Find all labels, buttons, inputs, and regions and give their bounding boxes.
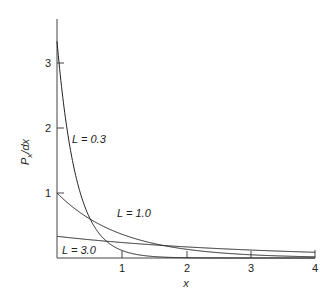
x-tick-label-3: 3 <box>248 262 254 274</box>
ticks <box>57 63 251 258</box>
y-axis-label: Px/dx <box>19 138 34 165</box>
curve-l-0-3 <box>57 41 315 258</box>
x-tick-label-2: 2 <box>184 262 190 274</box>
exponential-distribution-chart: 1 2 3 1 2 3 4 x Px/dx L = 0.3 L = 1.0 L … <box>0 0 335 303</box>
label-l-0-3: L = 0.3 <box>72 133 107 145</box>
y-tick-label-3: 3 <box>45 57 51 69</box>
label-l-3-0-text: L = 3.0 <box>62 244 97 256</box>
x-axis-label: x <box>182 277 189 289</box>
y-axis-label-tail: /dx <box>19 138 31 154</box>
label-l-1-0: L = 1.0 <box>117 207 152 219</box>
label-l-1-0-text: L = 1.0 <box>117 207 152 219</box>
x-tick-label-1: 1 <box>119 262 125 274</box>
x-tick-label-4: 4 <box>312 262 318 274</box>
y-tick-label-2: 2 <box>45 122 51 134</box>
label-l-0-3-text: L = 0.3 <box>72 133 107 145</box>
y-tick-label-1: 1 <box>45 187 51 199</box>
label-l-3-0: L = 3.0 <box>62 244 97 256</box>
